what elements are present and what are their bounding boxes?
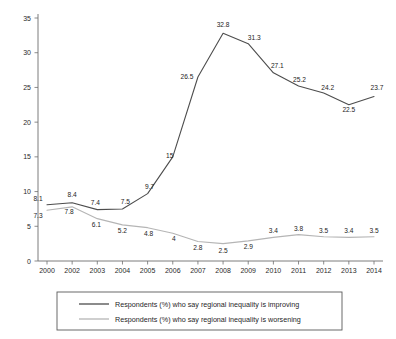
data-point-labels: 8.18.47.47.59.71526.532.831.327.125.224.… — [33, 21, 383, 253]
y-tick-label: 0 — [27, 258, 31, 265]
chart-legend: Respondents (%) who say regional inequal… — [57, 292, 342, 330]
x-tick-label: 2006 — [165, 267, 181, 274]
point-label: 9.7 — [145, 183, 154, 190]
legend-label-improving: Respondents (%) who say regional inequal… — [115, 300, 299, 309]
x-tick-label: 2002 — [64, 267, 80, 274]
series-line-improving — [47, 33, 374, 209]
point-label: 2.5 — [218, 247, 227, 254]
point-label: 2.9 — [244, 243, 253, 250]
line-chart: 05101520253035 2000200220032004200520062… — [0, 0, 396, 339]
x-tick-label: 2010 — [266, 267, 282, 274]
point-label: 31.3 — [248, 34, 261, 41]
point-label: 7.5 — [121, 198, 130, 205]
point-label: 2.8 — [193, 244, 202, 251]
y-tick-label: 20 — [23, 119, 31, 126]
x-tick-label: 2000 — [39, 267, 55, 274]
x-tick-label: 2012 — [316, 267, 332, 274]
y-tick-label: 15 — [23, 153, 31, 160]
point-label: 4 — [172, 235, 176, 242]
y-tick-label: 25 — [23, 84, 31, 91]
point-label: 7.4 — [91, 199, 100, 206]
x-tick-label: 2014 — [366, 267, 382, 274]
y-axis: 05101520253035 — [23, 14, 38, 265]
point-label: 8.1 — [33, 195, 42, 202]
point-label: 5.2 — [118, 227, 127, 234]
legend-label-worsening: Respondents (%) who say regional inequal… — [115, 315, 301, 324]
series-lines — [47, 33, 374, 243]
point-label: 27.1 — [271, 62, 284, 69]
point-label: 3.5 — [369, 227, 378, 234]
point-label: 26.5 — [180, 73, 193, 80]
point-label: 3.8 — [294, 225, 303, 232]
point-label: 7.3 — [33, 212, 42, 219]
legend-box — [57, 292, 342, 330]
y-tick-label: 30 — [23, 49, 31, 56]
point-label: 8.4 — [68, 191, 77, 198]
point-label: 6.1 — [92, 221, 101, 228]
point-label: 15 — [166, 152, 174, 159]
point-label: 3.4 — [344, 227, 353, 234]
y-tick-label: 5 — [27, 223, 31, 230]
x-tick-label: 2008 — [215, 267, 231, 274]
point-label: 22.5 — [342, 106, 355, 113]
y-tick-label: 10 — [23, 188, 31, 195]
x-tick-label: 2011 — [291, 267, 306, 274]
point-label: 4.8 — [144, 230, 153, 237]
point-label: 3.5 — [319, 227, 328, 234]
point-label: 3.4 — [269, 227, 278, 234]
x-tick-label: 2009 — [240, 267, 256, 274]
point-label: 23.7 — [371, 84, 384, 91]
point-label: 24.2 — [321, 84, 334, 91]
chart-container: 05101520253035 2000200220032004200520062… — [0, 0, 396, 339]
point-label: 25.2 — [293, 76, 306, 83]
x-tick-label: 2004 — [115, 267, 131, 274]
point-label: 7.8 — [65, 208, 74, 215]
y-tick-label: 35 — [23, 15, 31, 22]
x-tick-label: 2007 — [190, 267, 206, 274]
x-tick-label: 2005 — [140, 267, 156, 274]
x-tick-label: 2003 — [90, 267, 106, 274]
x-axis: 2000200220032004200520062007200820092010… — [38, 261, 383, 274]
x-tick-label: 2013 — [341, 267, 357, 274]
point-label: 32.8 — [217, 21, 230, 28]
